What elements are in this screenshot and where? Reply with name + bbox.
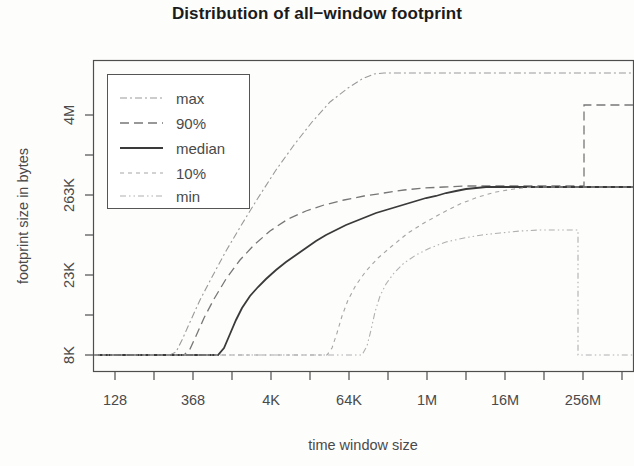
series-line-10pct	[94, 187, 633, 355]
legend-label-90pct: 90%	[176, 115, 206, 132]
chart-canvas: 128 368 4K 64K 1M 16M 256M 8K 23K 263K 4…	[0, 0, 634, 466]
legend-label-10pct: 10%	[176, 165, 206, 182]
y-tick-label: 263K	[61, 178, 77, 212]
chart-legend: max 90% median 10% min	[108, 75, 250, 209]
x-tick-label: 4K	[262, 392, 280, 408]
y-axis-title: footprint size in bytes	[15, 148, 31, 284]
y-axis-tick-labels: 8K 23K 263K 4M	[61, 105, 77, 364]
x-tick-label: 64K	[336, 392, 362, 408]
x-axis-title: time window size	[308, 437, 418, 453]
x-tick-label: 1M	[417, 392, 437, 408]
x-tick-label: 256M	[565, 392, 601, 408]
x-tick-label: 368	[181, 392, 205, 408]
chart-page: Distribution of all−window footprint 128…	[0, 0, 634, 466]
x-tick-label: 16M	[491, 392, 519, 408]
legend-label-max: max	[176, 90, 205, 107]
legend-label-min: min	[176, 188, 200, 205]
y-tick-label: 8K	[61, 346, 77, 364]
y-tick-label: 23K	[61, 262, 77, 288]
y-axis-ticks	[85, 115, 94, 355]
legend-label-median: median	[176, 140, 225, 157]
series-line-median	[94, 187, 633, 355]
series-line-min	[94, 230, 633, 355]
y-tick-label: 4M	[61, 105, 77, 125]
x-axis-ticks	[115, 372, 622, 381]
x-axis-tick-labels: 128 368 4K 64K 1M 16M 256M	[103, 392, 601, 408]
x-tick-label: 128	[103, 392, 127, 408]
